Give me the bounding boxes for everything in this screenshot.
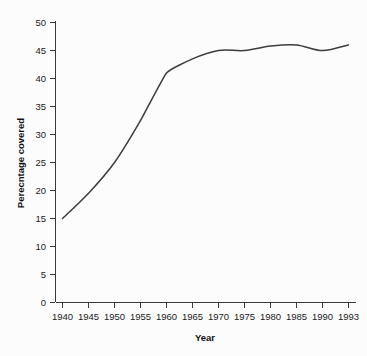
- x-tick-label: 1975: [234, 311, 255, 322]
- y-tick-label: 15: [35, 213, 46, 224]
- x-axis-title: Year: [195, 332, 215, 343]
- chart-container: 0 5 10 15 20 25 30 35 40 45 50: [0, 0, 367, 356]
- y-tick-label: 35: [35, 101, 46, 112]
- x-tick-label: 1990: [312, 311, 333, 322]
- x-tick-label: 1950: [104, 311, 125, 322]
- y-tick-label: 20: [35, 185, 46, 196]
- x-tick-label: 1945: [78, 311, 99, 322]
- y-tick-label: 40: [35, 73, 46, 84]
- x-tick-label: 1960: [156, 311, 177, 322]
- y-tick-label: 50: [35, 17, 46, 28]
- x-tick-label: 1985: [286, 311, 307, 322]
- y-tick-label: 45: [35, 45, 46, 56]
- line-chart: 0 5 10 15 20 25 30 35 40 45 50: [0, 0, 367, 356]
- x-tick-label: 1940: [52, 311, 73, 322]
- x-tick-label: 1965: [182, 311, 203, 322]
- x-tick-label: 1970: [208, 311, 229, 322]
- y-tick-label: 25: [35, 157, 46, 168]
- x-tick-label: 1980: [260, 311, 281, 322]
- y-tick-label: 0: [41, 297, 46, 308]
- x-tick-label: 1955: [130, 311, 151, 322]
- y-tick-label: 10: [35, 241, 46, 252]
- y-axis-title: Perecntage covered: [15, 118, 26, 208]
- y-tick-label: 30: [35, 129, 46, 140]
- x-tick-label: 1993: [338, 311, 359, 322]
- y-tick-label: 5: [41, 269, 46, 280]
